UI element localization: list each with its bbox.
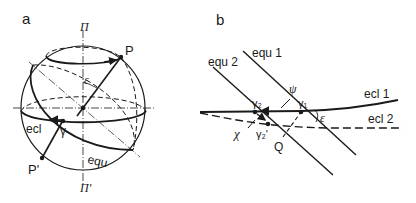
equator-label: equ [86,152,109,170]
precession-arrow [104,60,116,62]
point-P [119,55,123,59]
ecliptic-1-label: ecl 1 [364,87,390,101]
point-Q-label: Q [274,140,283,154]
equator-2-label: equ 2 [208,55,238,69]
chi-tick [248,120,255,128]
precession-diagram: a Π Π' P P' ε ecl γ equ b equ 1 equ 2 ec… [0,0,416,203]
point-gamma-1 [299,110,304,115]
ecliptic-2-label: ecl 2 [368,112,394,126]
point-P-prime [40,156,44,160]
gamma-label: γ [60,124,66,138]
point-P-label: P [125,43,134,58]
gamma-2-prime-label: γ₂' [256,128,268,140]
epsilon-label-b: ε [320,111,325,125]
panel-b-label: b [216,11,224,28]
pole-bottom-label: Π' [79,181,92,195]
gamma-2-label: γ₂ [252,97,262,109]
chi-label: χ [232,126,240,141]
gamma-1-label: γ₁ [298,97,308,109]
epsilon-arc-b [315,110,318,122]
equator-2-line [213,67,333,175]
point-gamma-2-prime [266,122,271,127]
point-P-prime-label: P' [28,162,39,177]
gamma-arrow [257,114,265,120]
ecliptic-front [21,111,146,122]
center-point [81,106,85,110]
antipole-vector [42,122,62,158]
panel-a-label: a [22,10,31,27]
pole-top-label: Π [79,20,90,34]
psi-tick [281,99,290,108]
epsilon-label: ε [84,73,89,87]
ecliptic-label: ecl [26,122,41,136]
point-gamma [61,119,65,123]
point-gamma-2 [253,110,258,115]
psi-label: ψ [289,82,297,96]
precession-circle-front [46,56,121,64]
equator-1-label: equ 1 [252,46,282,60]
